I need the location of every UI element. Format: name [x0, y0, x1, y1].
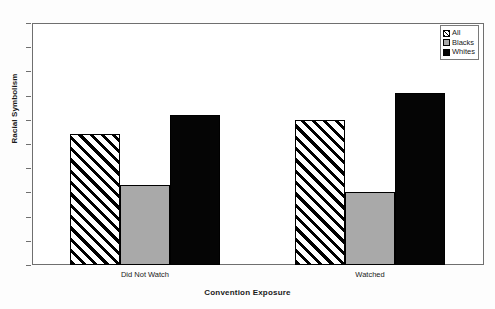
bar-did-not-watch-whites	[170, 115, 220, 265]
y-tick-mark	[26, 96, 31, 97]
bar-watched-all	[295, 120, 345, 265]
bar-watched-blacks	[345, 192, 395, 265]
y-tick-mark	[26, 120, 31, 121]
bar-watched-whites	[395, 93, 445, 265]
y-tick-mark	[26, 217, 31, 218]
legend-label: Whites	[452, 48, 475, 56]
y-tick-mark	[26, 265, 31, 266]
legend: AllBlacksWhites	[440, 25, 479, 60]
legend-item-blacks: Blacks	[443, 38, 475, 47]
legend-swatch-icon	[443, 30, 450, 37]
legend-item-all: All	[443, 29, 475, 38]
bar-did-not-watch-all	[70, 134, 120, 265]
legend-label: All	[452, 29, 460, 37]
legend-swatch-icon	[443, 49, 450, 56]
y-tick-mark	[26, 23, 31, 24]
y-tick-mark	[26, 144, 31, 145]
bar-chart: Racial Symbolism 10.90.80.70.60.50.40.30…	[0, 0, 495, 309]
legend-item-whites: Whites	[443, 48, 475, 57]
y-tick-mark	[26, 71, 31, 72]
y-tick-mark	[26, 168, 31, 169]
y-tick-mark	[26, 192, 31, 193]
x-axis-title: Convention Exposure	[0, 288, 495, 297]
x-category-label: Did Not Watch	[85, 270, 205, 279]
y-tick-mark	[26, 47, 31, 48]
y-axis-title: Racial Symbolism	[10, 39, 19, 179]
bar-did-not-watch-blacks	[120, 185, 170, 265]
x-category-label: Watched	[310, 270, 430, 279]
legend-swatch-icon	[443, 39, 450, 46]
y-tick-mark	[26, 241, 31, 242]
legend-label: Blacks	[452, 39, 474, 47]
